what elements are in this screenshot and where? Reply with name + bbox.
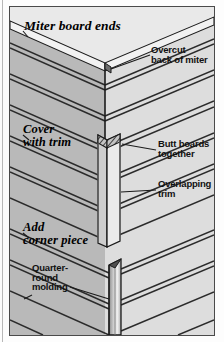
panel-heading-miter: Miter board ends — [24, 19, 121, 33]
page-gutter-rule — [2, 0, 3, 342]
callout-overlapping-trim: Overlapping trim — [158, 179, 211, 198]
panel-heading-cover-with-trim: Cover with trim — [23, 123, 71, 150]
trim-board-right — [107, 134, 120, 247]
illustration-figure: Miter board ends Overcut back of miter C… — [0, 0, 224, 342]
callout-quarter-round-molding: Quarter- round molding — [32, 263, 68, 292]
quarter-round-corner-piece — [109, 259, 121, 335]
trim-board-left — [98, 135, 107, 247]
corner-trim-assembly — [98, 134, 120, 247]
callout-overcut-back-of-miter: Overcut back of miter — [151, 45, 208, 64]
illustration-plate: Miter board ends Overcut back of miter C… — [9, 6, 215, 336]
panel-heading-add-corner-piece: Add corner piece — [23, 221, 88, 248]
callout-butt-boards-together: Butt boards together — [158, 139, 209, 158]
